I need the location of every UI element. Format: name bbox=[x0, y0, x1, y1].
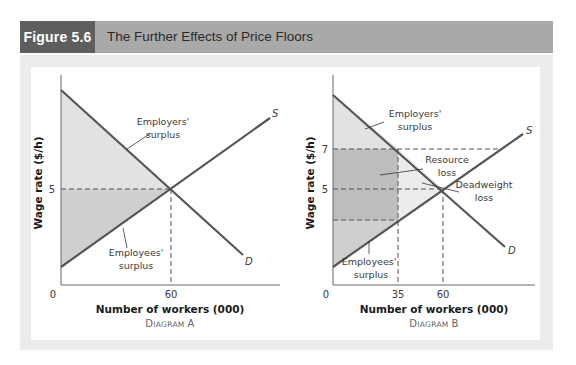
employees-surplus-label-b-2: surplus bbox=[354, 269, 389, 280]
y-tick-7-b: 7 bbox=[322, 144, 328, 155]
diagram-b: S D Employers' surplus Resource loss Dea… bbox=[304, 75, 535, 329]
employees-pointer-a bbox=[123, 228, 127, 248]
demand-label-a: D bbox=[245, 256, 253, 267]
x-tick-35-b: 35 bbox=[392, 289, 405, 300]
y-axis-title-b: Wage rate ($/h) bbox=[304, 137, 316, 230]
resource-loss-label-1: Resource bbox=[425, 154, 469, 165]
x-tick-60-b: 60 bbox=[437, 289, 450, 300]
employees-surplus-label-b-1: Employees' bbox=[342, 256, 397, 267]
employees-surplus-label-a-1: Employees' bbox=[109, 247, 164, 258]
diagram-a: S D Employers' surplus Employees' surplu… bbox=[32, 75, 280, 329]
resource-loss-label-2: loss bbox=[438, 167, 456, 178]
y-tick-5-a: 5 bbox=[49, 184, 55, 195]
x-tick-0-a: 0 bbox=[50, 289, 56, 300]
y-tick-5-b: 5 bbox=[322, 184, 328, 195]
y-axis-title-a: Wage rate ($/h) bbox=[32, 137, 44, 230]
employers-surplus-label-b-2: surplus bbox=[398, 121, 433, 132]
deadweight-loss-label-1: Deadweight bbox=[455, 179, 512, 190]
deadweight-loss-label-2: loss bbox=[475, 192, 493, 203]
supply-label-b: S bbox=[526, 125, 533, 136]
diagram-b-caption: DIAGRAMB bbox=[409, 318, 459, 329]
employers-surplus-label-b-1: Employers' bbox=[389, 108, 442, 119]
employers-surplus-label-a-2: surplus bbox=[146, 129, 181, 140]
figure-charts: S D Employers' surplus Employees' surplu… bbox=[0, 0, 576, 365]
x-axis-title-a: Number of workers (000) bbox=[96, 303, 245, 315]
demand-label-b: D bbox=[508, 245, 516, 256]
resource-loss-area bbox=[333, 149, 398, 220]
x-axis-title-b: Number of workers (000) bbox=[360, 303, 509, 315]
employees-surplus-label-a-2: surplus bbox=[119, 260, 154, 271]
supply-label-a: S bbox=[272, 108, 279, 119]
x-tick-60-a: 60 bbox=[165, 289, 178, 300]
diagram-a-caption: DIAGRAMA bbox=[145, 318, 195, 329]
employers-surplus-label-a-1: Employers' bbox=[137, 116, 190, 127]
x-tick-0-b: 0 bbox=[323, 289, 329, 300]
